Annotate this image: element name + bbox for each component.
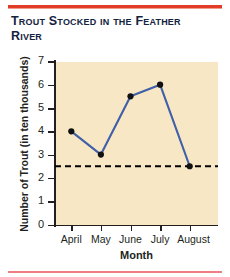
top-divider-rule: [8, 5, 222, 8]
x-axis-title: Month: [55, 249, 218, 261]
data-series-layer: [0, 48, 230, 277]
chart-plot-region: 0 1 2 3 4 5 6 7 April May June July Augu…: [0, 48, 230, 277]
data-point-marker: [68, 128, 74, 134]
chart-title: Trout Stocked in the Feather River: [11, 14, 211, 43]
data-point-marker: [127, 93, 133, 99]
data-point-marker: [98, 152, 104, 158]
bottom-divider-rule: [8, 271, 222, 273]
y-axis-title: Number of Trout (in ten thousands): [18, 54, 30, 234]
data-point-marker: [187, 163, 193, 169]
data-point-marker: [157, 82, 163, 88]
chart-figure: Trout Stocked in the Feather River 0 1 2…: [0, 0, 230, 277]
